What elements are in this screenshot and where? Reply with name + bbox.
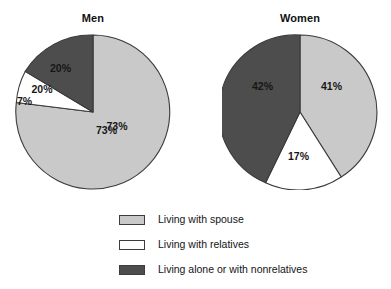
- pie-chart-men: 73% 20% 7%: [15, 34, 171, 190]
- pie-women-label-alone-text: 42%: [252, 80, 273, 92]
- pie-men-label-alone: 20%: [31, 83, 53, 95]
- legend-item-relatives: Living with relatives: [119, 232, 381, 257]
- chart-title-women: Women: [270, 12, 330, 24]
- pie-men-svg: 73% 20% 7%: [15, 34, 171, 190]
- legend-item-alone: Living alone or with nonrelatives: [119, 257, 381, 282]
- pie-chart-figure: Men 73% 20% 7% 20% 7% 73% Women 41% 42% …: [0, 0, 391, 289]
- legend-item-spouse: Living with spouse: [119, 207, 381, 232]
- chart-title-men: Men: [63, 12, 123, 24]
- pie-women-label-spouse-text: 41%: [321, 80, 342, 92]
- pie-women-label-relatives-text: 17%: [288, 150, 309, 162]
- pie-men-label-alone-text: 20%: [50, 62, 71, 74]
- pie-women-svg: [222, 34, 378, 190]
- pie-men-label-relatives-text: 7%: [17, 95, 32, 107]
- legend-swatch-alone: [119, 265, 145, 275]
- legend: Living with spouse Living with relatives…: [119, 207, 381, 282]
- legend-label-spouse: Living with spouse: [158, 214, 244, 225]
- pie-chart-women: [222, 34, 378, 190]
- legend-label-relatives: Living with relatives: [158, 239, 249, 250]
- legend-swatch-relatives: [119, 240, 145, 250]
- legend-label-alone: Living alone or with nonrelatives: [158, 264, 307, 275]
- pie-men-label-spouse-text: 73%: [96, 124, 117, 136]
- legend-swatch-spouse: [119, 215, 145, 225]
